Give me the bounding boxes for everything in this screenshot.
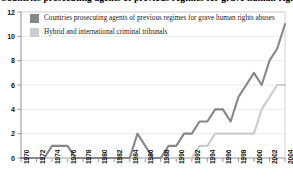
legend-label: Countries prosecuting agents of previous… (44, 14, 275, 23)
x-tick-label: 1972 (40, 150, 47, 164)
x-tick-label: 1976 (71, 150, 78, 164)
x-tick-label: 1998 (241, 150, 248, 164)
y-tick-label: 8 (1, 57, 15, 64)
y-tick-label: 6 (1, 82, 15, 89)
chart-container: Countries prosecuting agents of previous… (0, 0, 293, 189)
y-tick-label: 2 (1, 130, 15, 137)
x-tick-label: 2000 (257, 150, 264, 164)
legend-label: Hybrid and international criminal tribun… (44, 28, 167, 37)
y-tick-label: 4 (1, 106, 15, 113)
x-tick-label: 1990 (179, 150, 186, 164)
x-tick-label: 2002 (272, 150, 279, 164)
x-tick-label: 1992 (195, 150, 202, 164)
y-tick-label: 10 (1, 33, 15, 40)
x-tick-label: 1974 (55, 150, 62, 164)
x-tick-label: 1988 (164, 150, 171, 164)
legend-color-swatch (30, 14, 39, 23)
x-tick-label: 1994 (210, 150, 217, 164)
y-tick-label: 12 (1, 9, 15, 16)
x-tick-label: 1984 (133, 150, 140, 164)
legend-item: Countries prosecuting agents of previous… (30, 14, 275, 23)
x-tick-label: 1970 (24, 150, 31, 164)
x-tick-label: 1978 (86, 150, 93, 164)
x-tick-label: 1996 (226, 150, 233, 164)
x-tick-label: 2004 (288, 150, 293, 164)
x-tick-label: 1986 (148, 150, 155, 164)
x-tick-label: 1982 (117, 150, 124, 164)
legend-color-swatch (30, 28, 39, 37)
x-tick-label: 1980 (102, 150, 109, 164)
legend-item: Hybrid and international criminal tribun… (30, 28, 167, 37)
y-tick-label: 0 (1, 155, 15, 162)
